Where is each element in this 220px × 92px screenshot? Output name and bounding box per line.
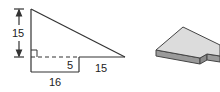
height-label: 15 [12, 27, 24, 39]
right-angle-marker [31, 50, 37, 57]
prism-3d [156, 27, 220, 64]
triangle-extension-label: 15 [95, 62, 107, 74]
rect-height-label: 5 [67, 59, 73, 71]
rect-width-label: 16 [49, 76, 61, 88]
triangle [31, 9, 125, 72]
composite-figure-2d: 15 5 15 16 [0, 0, 220, 92]
